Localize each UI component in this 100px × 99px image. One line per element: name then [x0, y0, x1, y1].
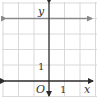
y-tick-label-1: 1	[38, 61, 44, 72]
y-axis-label: y	[37, 5, 45, 18]
origin-label: O	[36, 83, 45, 96]
x-axis-label: x	[84, 83, 91, 96]
coordinate-plane: y x O 1 1	[0, 0, 100, 99]
x-tick-label-1: 1	[60, 84, 66, 95]
